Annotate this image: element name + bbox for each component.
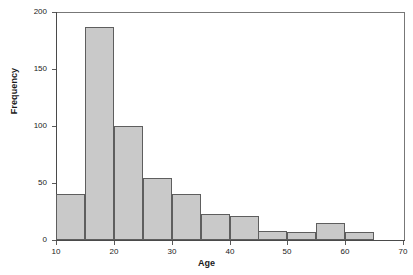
histogram-bar bbox=[230, 216, 259, 240]
histogram-bar bbox=[316, 223, 345, 240]
x-tick-mark bbox=[345, 241, 346, 245]
x-axis-title: Age bbox=[0, 258, 413, 268]
y-tick-label: 200 bbox=[17, 7, 47, 16]
x-tick-label: 40 bbox=[218, 247, 242, 256]
x-tick-mark bbox=[114, 241, 115, 245]
x-tick-mark bbox=[172, 241, 173, 245]
histogram-bar bbox=[143, 178, 172, 240]
x-tick-label: 60 bbox=[333, 247, 357, 256]
y-tick-label: 50 bbox=[17, 178, 47, 187]
x-tick-mark bbox=[287, 241, 288, 245]
y-tick-label: 100 bbox=[17, 121, 47, 130]
histogram-bar bbox=[56, 194, 85, 240]
x-tick-label: 20 bbox=[102, 247, 126, 256]
y-tick-label: 150 bbox=[17, 64, 47, 73]
histogram-bar bbox=[114, 126, 143, 240]
histogram-bar bbox=[85, 27, 114, 240]
x-tick-mark bbox=[403, 241, 404, 245]
y-tick-mark bbox=[52, 69, 56, 70]
y-tick-label: 0 bbox=[17, 235, 47, 244]
x-tick-mark bbox=[56, 241, 57, 245]
histogram-figure: Frequency Age 05010015020010203040506070 bbox=[0, 0, 413, 275]
x-tick-label: 70 bbox=[391, 247, 413, 256]
y-tick-mark bbox=[52, 12, 56, 13]
histogram-bar bbox=[201, 214, 230, 240]
y-tick-mark bbox=[52, 126, 56, 127]
x-tick-label: 30 bbox=[160, 247, 184, 256]
histogram-bar bbox=[172, 194, 201, 240]
histogram-bar bbox=[258, 231, 287, 240]
histogram-bar bbox=[287, 232, 316, 240]
y-tick-mark bbox=[52, 183, 56, 184]
x-tick-mark bbox=[230, 241, 231, 245]
x-tick-label: 10 bbox=[44, 247, 68, 256]
y-axis-title: Frequency bbox=[9, 51, 19, 131]
x-tick-label: 50 bbox=[275, 247, 299, 256]
histogram-bar bbox=[345, 232, 374, 240]
